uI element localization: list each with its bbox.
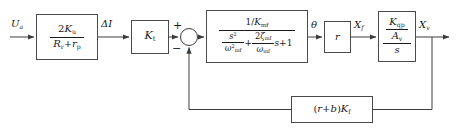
block-feedback-gain[interactable]: (r+b)Kf: [291, 96, 373, 123]
summing-junction-circle: [181, 29, 198, 46]
signal-label-delta-i: ΔI: [101, 19, 112, 29]
block-gain-r[interactable]: r: [324, 21, 351, 53]
block-gain-kt[interactable]: Kt: [131, 20, 169, 54]
summing-junction-plus-sign: +: [173, 20, 182, 31]
block-diagram: Ua 2Ku Rr+rp ΔI Kt + − 1/Kmf s2 ω2m: [0, 0, 456, 140]
signal-label-theta: θ: [311, 20, 317, 30]
block-integrator[interactable]: Kqp Av s: [378, 11, 416, 62]
signal-label-xv: Xv: [419, 20, 430, 31]
block-gain-ku[interactable]: 2Ku Rr+rp: [36, 14, 98, 60]
signal-label-xf: Xf: [354, 20, 363, 31]
block-transfer-function[interactable]: 1/Kmf s2 ω2mf + 2ζmf ωmf s+1: [206, 10, 308, 63]
summing-junction-minus-sign: −: [172, 43, 181, 54]
signal-label-input: Ua: [11, 19, 23, 30]
